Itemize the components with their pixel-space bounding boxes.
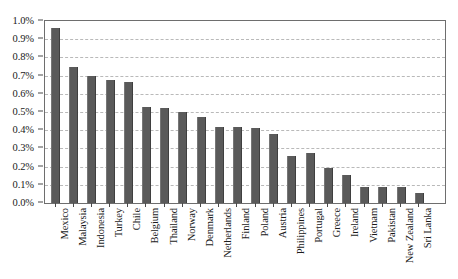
x-tick-label: Mexico <box>59 208 70 239</box>
x-tick-label: Belgium <box>149 208 160 243</box>
x-tick-label: Poland <box>259 208 270 237</box>
x-tick-label: Thailand <box>168 208 179 245</box>
bar <box>342 175 351 203</box>
y-tick-label: 1.0% <box>13 15 34 26</box>
x-tick-label: Norway <box>186 208 197 241</box>
bar <box>51 28 60 203</box>
bar <box>233 127 242 203</box>
y-tick-mark <box>38 183 43 184</box>
bar <box>397 187 406 203</box>
bar <box>269 134 278 203</box>
x-tick-mark <box>345 203 346 207</box>
bar <box>178 112 187 203</box>
x-tick-label: Indonesia <box>95 208 106 248</box>
bar <box>124 82 133 203</box>
y-tick-mark <box>38 165 43 166</box>
bar <box>378 187 387 203</box>
x-tick-mark <box>291 203 292 207</box>
bar <box>287 156 296 203</box>
x-tick-mark <box>273 203 274 207</box>
x-tick-label: Chile <box>131 208 142 230</box>
x-tick-mark <box>255 203 256 207</box>
plot-area <box>44 20 446 204</box>
y-tick-label: 0.6% <box>13 87 34 98</box>
y-tick-label: 0.3% <box>13 142 34 153</box>
bar <box>160 108 169 203</box>
x-tick-mark <box>364 203 365 207</box>
x-tick-mark <box>218 203 219 207</box>
y-tick-mark <box>38 20 43 21</box>
x-tick-mark <box>91 203 92 207</box>
y-tick-label: 0.2% <box>13 160 34 171</box>
x-tick-mark <box>236 203 237 207</box>
bar <box>197 117 206 203</box>
x-tick-mark <box>382 203 383 207</box>
x-tick-label: Turkey <box>113 208 124 237</box>
y-tick-mark <box>38 56 43 57</box>
x-tick-label: Philippines <box>295 208 306 254</box>
y-tick-label: 0.7% <box>13 69 34 80</box>
x-tick-label: Greece <box>331 208 342 237</box>
x-tick-mark <box>73 203 74 207</box>
y-tick-mark <box>38 111 43 112</box>
x-tick-mark <box>145 203 146 207</box>
x-tick-mark <box>200 203 201 207</box>
y-tick-mark <box>38 202 43 203</box>
bar <box>215 127 224 203</box>
x-tick-label: Austria <box>277 208 288 238</box>
bar <box>106 80 115 203</box>
x-tick-label: Denmark <box>204 208 215 246</box>
y-tick-mark <box>38 147 43 148</box>
x-axis: MexicoMalaysiaIndonesiaTurkeyChileBelgiu… <box>44 208 444 279</box>
bar <box>306 153 315 203</box>
x-tick-mark <box>55 203 56 207</box>
x-tick-label: Sri Lanka <box>422 208 433 248</box>
y-tick-label: 0.8% <box>13 51 34 62</box>
x-tick-mark <box>400 203 401 207</box>
y-tick-label: 0.4% <box>13 124 34 135</box>
y-axis: 1.0%0.9%0.8%0.7%0.6%0.5%0.4%0.3%0.2%0.1%… <box>0 0 42 279</box>
y-tick-label: 0.9% <box>13 33 34 44</box>
bar <box>87 76 96 203</box>
x-tick-label: Malaysia <box>77 208 88 246</box>
x-tick-mark <box>127 203 128 207</box>
x-tick-label: Finland <box>240 208 251 239</box>
bar-chart-figure: 1.0%0.9%0.8%0.7%0.6%0.5%0.4%0.3%0.2%0.1%… <box>0 0 458 279</box>
x-tick-mark <box>327 203 328 207</box>
bar <box>415 193 424 203</box>
y-tick-mark <box>38 92 43 93</box>
x-tick-mark <box>182 203 183 207</box>
bars-series <box>45 21 445 203</box>
bar <box>142 107 151 203</box>
y-tick-label: 0.1% <box>13 178 34 189</box>
x-tick-label: Netherlands <box>222 208 233 258</box>
x-tick-label: Portugal <box>313 208 324 243</box>
bar <box>251 128 260 203</box>
y-tick-mark <box>38 38 43 39</box>
x-tick-label: Vietnam <box>368 208 379 243</box>
bar <box>324 168 333 203</box>
bar <box>69 67 78 204</box>
x-tick-label: New Zealand <box>404 208 415 263</box>
bar <box>360 187 369 203</box>
x-tick-mark <box>164 203 165 207</box>
y-tick-label: 0.0% <box>13 197 34 208</box>
x-tick-mark <box>309 203 310 207</box>
x-tick-label: Pakistan <box>386 208 397 243</box>
x-tick-label: Ireland <box>349 208 360 237</box>
y-tick-label: 0.5% <box>13 106 34 117</box>
y-tick-mark <box>38 74 43 75</box>
y-tick-mark <box>38 129 43 130</box>
x-tick-mark <box>109 203 110 207</box>
x-tick-mark <box>418 203 419 207</box>
